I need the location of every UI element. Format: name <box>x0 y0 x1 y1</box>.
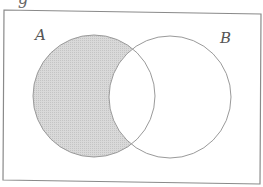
set-b-label: B <box>219 29 231 47</box>
cut-off-text: g <box>18 0 28 8</box>
set-a-label: A <box>33 26 46 44</box>
shaded-region-a-minus-b <box>33 35 155 157</box>
venn-diagram: g A B <box>0 0 263 187</box>
